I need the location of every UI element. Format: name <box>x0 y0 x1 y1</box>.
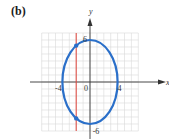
chart: -4046-6xy <box>0 0 169 139</box>
y-tick-label: 6 <box>83 35 87 44</box>
intersection-point <box>74 43 78 47</box>
y-tick-label: -6 <box>93 127 100 136</box>
x-axis-label: x <box>165 78 169 87</box>
x-axis-arrow <box>158 80 166 85</box>
y-axis-label: y <box>88 7 93 16</box>
x-tick-label: -4 <box>55 84 62 93</box>
y-axis-arrow <box>88 18 93 26</box>
x-tick-label: 0 <box>84 84 88 93</box>
intersection-point <box>74 116 78 120</box>
labels: -4046-6xy <box>55 7 169 136</box>
axes <box>30 18 166 139</box>
x-tick-label: 4 <box>118 84 122 93</box>
